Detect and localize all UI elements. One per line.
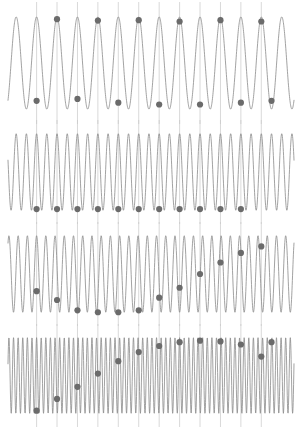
sample-marker	[156, 295, 162, 301]
chart-panel-1	[0, 4, 302, 122]
chart-panel-4	[0, 326, 302, 425]
sample-marker	[95, 206, 101, 212]
sample-marker	[197, 271, 203, 277]
sample-marker	[54, 396, 60, 402]
sample-marker	[156, 206, 162, 212]
sample-marker	[54, 16, 60, 22]
sample-marker	[238, 206, 244, 212]
sample-marker	[136, 206, 142, 212]
gridlines	[37, 120, 262, 224]
sine-wave	[8, 236, 294, 313]
sample-marker	[115, 309, 121, 315]
sample-marker	[177, 339, 183, 345]
sample-marker	[268, 98, 274, 104]
sample-marker	[34, 288, 40, 294]
chart-panel-3	[0, 224, 302, 324]
sample-marker	[95, 309, 101, 315]
sample-marker	[115, 206, 121, 212]
sample-marker	[258, 353, 264, 359]
sample-marker	[197, 338, 203, 344]
sample-marker	[34, 408, 40, 414]
sine-wave	[8, 17, 294, 109]
sample-markers	[34, 206, 244, 212]
sample-marker	[74, 307, 80, 313]
sample-marker	[136, 17, 142, 23]
sample-marker	[74, 96, 80, 102]
gridlines	[37, 222, 262, 326]
sample-marker	[115, 358, 121, 364]
sample-marker	[136, 307, 142, 313]
sample-marker	[217, 338, 223, 344]
panel-critical-frequency	[0, 122, 302, 222]
sample-marker	[217, 206, 223, 212]
sample-marker	[177, 285, 183, 291]
aliasing-figure	[0, 0, 302, 429]
sample-marker	[238, 250, 244, 256]
panel-aliased-frequency	[0, 224, 302, 324]
sample-marker	[258, 18, 264, 24]
sample-marker	[95, 371, 101, 377]
sample-marker	[217, 17, 223, 23]
sample-marker	[197, 101, 203, 107]
sample-marker	[177, 18, 183, 24]
sine-wave	[8, 338, 294, 414]
sample-marker	[95, 18, 101, 24]
panel-low-frequency	[0, 4, 302, 122]
sample-marker	[238, 100, 244, 106]
sample-marker	[34, 98, 40, 104]
sample-marker	[34, 206, 40, 212]
sample-marker	[258, 243, 264, 249]
sample-marker	[54, 297, 60, 303]
sample-marker	[156, 343, 162, 349]
gridlines	[37, 2, 262, 124]
sample-marker	[136, 349, 142, 355]
panel-highest-frequency	[0, 326, 302, 425]
sine-wave	[8, 134, 294, 211]
sample-marker	[74, 384, 80, 390]
sample-marker	[268, 339, 274, 345]
sample-marker	[177, 206, 183, 212]
sample-marker	[115, 100, 121, 106]
sample-marker	[197, 206, 203, 212]
sample-marker	[74, 206, 80, 212]
sample-marker	[238, 341, 244, 347]
sample-marker	[217, 259, 223, 265]
chart-panel-2	[0, 122, 302, 222]
sample-marker	[156, 101, 162, 107]
sample-marker	[54, 206, 60, 212]
